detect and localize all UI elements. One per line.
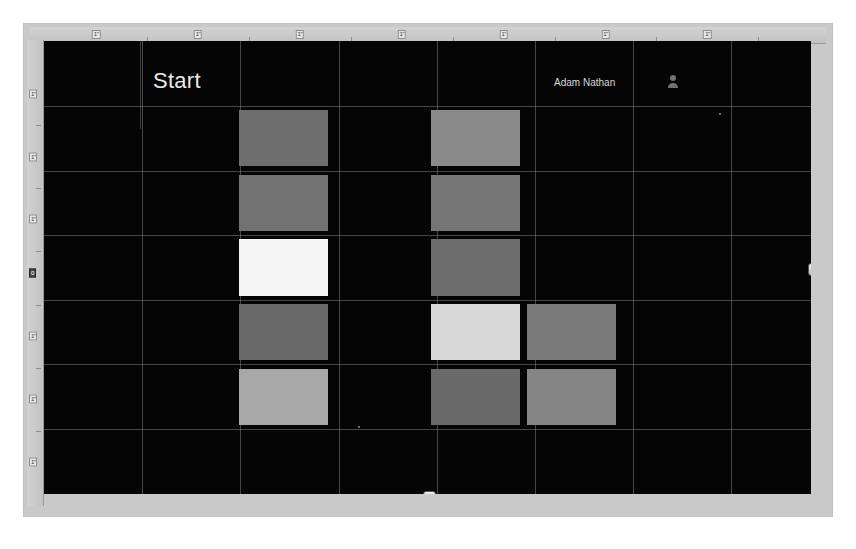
selection-handle-bottom[interactable] — [423, 491, 436, 494]
tile-col4-row4[interactable] — [431, 304, 520, 361]
ruler-minor-mark — [36, 125, 41, 126]
grid-line-horizontal — [44, 235, 811, 236]
ruler-tick-label: 1" — [29, 394, 37, 403]
tile-col5-row5[interactable] — [527, 369, 616, 426]
tile-col2-row1[interactable] — [239, 110, 328, 167]
tile-col4-row1[interactable] — [431, 110, 520, 167]
tile-col4-row5[interactable] — [431, 369, 520, 426]
grid-line-horizontal — [44, 364, 811, 365]
ruler-minor-mark — [36, 431, 41, 432]
tile-col4-row2[interactable] — [431, 175, 520, 232]
ruler-minor-mark — [36, 251, 41, 252]
ruler-minor-mark — [36, 188, 41, 189]
ruler-minor-mark — [36, 305, 41, 306]
grid-line-horizontal — [44, 106, 811, 107]
ruler-tick-label: 1" — [92, 30, 100, 39]
slide-canvas[interactable]: Start Adam Nathan — [44, 41, 811, 494]
user-avatar-icon — [667, 74, 679, 88]
grid-line-vertical — [731, 41, 732, 494]
vertical-ruler[interactable]: 1"1"1"01"1"1" — [27, 40, 44, 506]
tile-col2-row5[interactable] — [239, 369, 328, 426]
grid-line-vertical — [633, 41, 634, 494]
slide-title[interactable]: Start — [153, 68, 201, 94]
grid-line-vertical — [535, 41, 536, 494]
ruler-tick-label: 1" — [397, 30, 405, 39]
ruler-tick-label: 1" — [601, 30, 609, 39]
tile-col2-row3[interactable] — [239, 239, 328, 296]
tile-col2-row2[interactable] — [239, 175, 328, 232]
ruler-tick-label: 1" — [29, 89, 37, 98]
grid-line-vertical — [339, 41, 340, 494]
ruler-tick-label: 1" — [194, 30, 202, 39]
grid-line-vertical — [142, 41, 143, 494]
ruler-cursor-indicator: 0 — [29, 269, 36, 278]
user-name-label[interactable]: Adam Nathan — [554, 77, 615, 88]
decor-speck — [719, 113, 721, 115]
ruler-minor-mark — [36, 368, 41, 369]
grid-line-horizontal — [44, 300, 811, 301]
ruler-tick-label: 1" — [29, 152, 37, 161]
ruler-tick-label: 1" — [703, 30, 711, 39]
grid-line-horizontal — [44, 429, 811, 430]
ruler-tick-label: 1" — [29, 215, 37, 224]
tile-col5-row4[interactable] — [527, 304, 616, 361]
ruler-tick-label: 1" — [296, 30, 304, 39]
tile-col2-row4[interactable] — [239, 304, 328, 361]
ruler-tick-label: 1" — [29, 331, 37, 340]
decor-speck — [358, 426, 360, 428]
grid-line-horizontal — [44, 171, 811, 172]
ruler-tick-label: 1" — [29, 457, 37, 466]
tile-col4-row3[interactable] — [431, 239, 520, 296]
ruler-tick-label: 1" — [499, 30, 507, 39]
screenshot-root: 1"1"1"1"1"1"1" 1"1"1"01"1"1" Start Adam … — [0, 0, 856, 549]
selection-handle-right[interactable] — [808, 263, 811, 276]
textbox-guide — [140, 41, 141, 129]
